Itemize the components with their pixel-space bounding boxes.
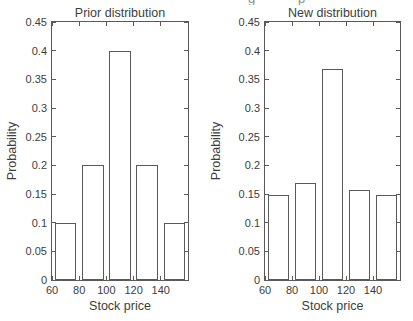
- y-tick-label: 0.2: [5, 159, 47, 171]
- y-tick-label: 0.35: [218, 73, 260, 85]
- x-tick-label: 100: [304, 284, 334, 296]
- x-tick-mark: [346, 22, 347, 26]
- y-tick-mark: [396, 222, 400, 223]
- cropped-caption-fragment: g p: [230, 0, 340, 5]
- figure: g p Prior distribution Probability Stock…: [0, 0, 413, 321]
- y-tick-mark: [396, 251, 400, 252]
- y-tick-mark: [265, 50, 269, 51]
- x-tick-label: 140: [358, 284, 388, 296]
- y-tick-mark: [184, 251, 188, 252]
- x-tick-mark: [265, 22, 266, 26]
- x-tick-mark: [52, 22, 53, 26]
- bar: [136, 165, 158, 280]
- x-tick-mark: [106, 22, 107, 26]
- x-tick-mark: [292, 22, 293, 26]
- x-tick-label: 80: [277, 284, 307, 296]
- y-tick-mark: [396, 108, 400, 109]
- x-tick-label: 100: [91, 284, 121, 296]
- chart-title-new: New distribution: [265, 6, 400, 20]
- x-tick-label: 60: [37, 284, 67, 296]
- y-tick-label: 0.15: [5, 188, 47, 200]
- x-tick-mark: [373, 22, 374, 26]
- x-tick-mark: [52, 276, 53, 280]
- x-tick-mark: [106, 276, 107, 280]
- plot-area-new: [264, 21, 401, 281]
- x-tick-label: 80: [64, 284, 94, 296]
- x-tick-mark: [79, 276, 80, 280]
- x-tick-mark: [319, 276, 320, 280]
- y-axis-label-new: Probability: [208, 22, 224, 280]
- cropped-glyph: p: [298, 0, 305, 5]
- x-tick-mark: [292, 276, 293, 280]
- x-tick-label: 60: [250, 284, 280, 296]
- y-tick-mark: [184, 79, 188, 80]
- y-tick-mark: [396, 50, 400, 51]
- x-tick-mark: [160, 22, 161, 26]
- y-tick-mark: [265, 222, 269, 223]
- y-tick-mark: [396, 280, 400, 281]
- y-tick-mark: [396, 79, 400, 80]
- y-tick-label: 0.15: [218, 188, 260, 200]
- y-tick-mark: [184, 136, 188, 137]
- bar: [109, 51, 131, 280]
- y-tick-mark: [184, 222, 188, 223]
- y-axis-label-prior: Probability: [4, 22, 20, 280]
- x-tick-mark: [160, 276, 161, 280]
- x-axis-label-prior: Stock price: [52, 299, 188, 313]
- y-tick-mark: [265, 165, 269, 166]
- y-tick-label: 0.4: [218, 45, 260, 57]
- y-tick-mark: [52, 222, 56, 223]
- y-tick-mark: [184, 108, 188, 109]
- y-tick-mark: [52, 50, 56, 51]
- y-tick-mark: [265, 136, 269, 137]
- y-tick-mark: [52, 22, 56, 23]
- y-tick-mark: [52, 79, 56, 80]
- y-tick-label: 0.35: [5, 73, 47, 85]
- x-tick-label: 120: [331, 284, 361, 296]
- bar: [55, 223, 77, 280]
- y-tick-mark: [184, 165, 188, 166]
- y-tick-mark: [396, 165, 400, 166]
- y-tick-mark: [52, 165, 56, 166]
- bar: [295, 183, 317, 281]
- y-tick-mark: [265, 22, 269, 23]
- x-tick-mark: [373, 276, 374, 280]
- y-tick-mark: [52, 280, 56, 281]
- y-tick-mark: [52, 194, 56, 195]
- y-tick-label: 0.1: [218, 217, 260, 229]
- y-tick-mark: [265, 79, 269, 80]
- y-tick-mark: [265, 280, 269, 281]
- y-tick-mark: [396, 194, 400, 195]
- y-tick-label: 0.05: [218, 245, 260, 257]
- y-tick-label: 0.4: [5, 45, 47, 57]
- y-tick-label: 0.3: [218, 102, 260, 114]
- y-tick-label: 0.2: [218, 159, 260, 171]
- y-tick-label: 0.05: [5, 245, 47, 257]
- plot-area-prior: [51, 21, 189, 281]
- y-tick-mark: [396, 136, 400, 137]
- x-tick-mark: [319, 22, 320, 26]
- y-tick-label: 0.25: [218, 131, 260, 143]
- bar: [376, 195, 398, 280]
- x-tick-mark: [346, 276, 347, 280]
- x-tick-label: 120: [119, 284, 149, 296]
- bar: [268, 195, 290, 280]
- x-tick-mark: [265, 276, 266, 280]
- y-tick-mark: [265, 251, 269, 252]
- y-tick-mark: [396, 22, 400, 23]
- x-tick-mark: [79, 22, 80, 26]
- x-axis-label-new: Stock price: [265, 299, 400, 313]
- x-tick-mark: [133, 22, 134, 26]
- y-tick-mark: [52, 136, 56, 137]
- y-tick-label: 0.1: [5, 217, 47, 229]
- y-tick-label: 0.45: [5, 16, 47, 28]
- bar: [349, 190, 371, 280]
- y-tick-mark: [184, 194, 188, 195]
- y-tick-mark: [184, 22, 188, 23]
- x-tick-mark: [133, 276, 134, 280]
- y-tick-label: 0.25: [5, 131, 47, 143]
- y-tick-mark: [184, 50, 188, 51]
- bar: [82, 165, 104, 280]
- bar: [322, 69, 344, 280]
- y-tick-mark: [265, 108, 269, 109]
